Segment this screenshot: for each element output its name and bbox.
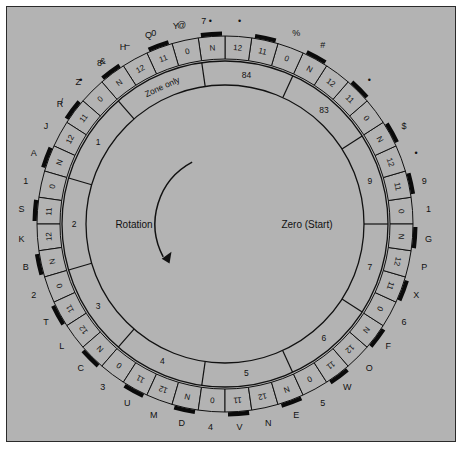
zone-label: 9	[368, 176, 373, 186]
outer-character-ring: 01112N01112N01112N01112N01112N01112N0111…	[37, 36, 413, 412]
outer-character-label: •	[238, 16, 241, 26]
character-cell-value: 12	[233, 43, 243, 53]
zone-separator	[342, 136, 362, 149]
outer-character-label: D	[178, 418, 185, 428]
outer-character-label: %	[292, 28, 300, 38]
figure-frame: 98384Zone only1234567 01112N01112N01112N…	[6, 6, 456, 442]
inner-zone-ring: 98384Zone only1234567	[62, 61, 388, 387]
outer-character-label: B	[23, 262, 29, 272]
zone-separator	[118, 101, 134, 119]
zone-label: 6	[321, 333, 326, 343]
outer-character-label: 1	[426, 204, 431, 214]
zone-separator	[202, 362, 205, 386]
zone-separator	[69, 178, 92, 185]
zone-separator	[202, 63, 205, 87]
zone-separator	[69, 263, 92, 270]
outer-character-label: J	[44, 121, 49, 131]
outer-character-label: S	[19, 204, 25, 214]
zone-separator	[283, 350, 293, 372]
character-cell-value: N	[396, 233, 405, 240]
outer-character-label: 9	[422, 176, 427, 186]
outer-character-label: 7	[201, 16, 206, 26]
zone-separator	[283, 76, 293, 98]
character-cell-value: 12	[44, 231, 54, 241]
zone-label: 84	[242, 70, 252, 80]
index-tick	[414, 227, 416, 248]
code-wheel-diagram: 98384Zone only1234567 01112N01112N01112N…	[7, 7, 455, 441]
outer-character-label: W	[343, 382, 352, 392]
index-tick	[201, 34, 222, 36]
outer-character-label: U	[124, 398, 131, 408]
zone-label: 1	[96, 137, 101, 147]
character-cell-value: 11	[233, 395, 242, 405]
outer-character-label: Q	[145, 30, 152, 40]
outer-character-label: K	[19, 234, 25, 244]
zone-label: 5	[244, 368, 249, 378]
outer-character-label: T	[43, 317, 49, 327]
outer-character-label: 4	[208, 422, 213, 432]
outer-character-label: R	[57, 99, 64, 109]
outer-character-label: 8	[97, 58, 102, 68]
outer-character-label: N	[265, 418, 272, 428]
zone-label: 7	[368, 262, 373, 272]
outer-character-label: C	[78, 363, 85, 373]
outer-character-label: O	[366, 363, 373, 373]
zone-label: 3	[96, 301, 101, 311]
zone-separator	[118, 329, 134, 347]
outer-character-label: H	[120, 42, 127, 52]
outer-character-label: 1	[23, 176, 28, 186]
rotation-arrow	[155, 162, 192, 263]
outer-character-label: 5	[320, 398, 325, 408]
outer-character-label: $	[402, 121, 407, 131]
outer-character-label: X	[413, 290, 419, 300]
outer-character-label: V	[237, 422, 243, 432]
outer-character-label: Z	[76, 77, 82, 87]
character-cell-value: 11	[44, 206, 54, 215]
zone-label: 2	[72, 219, 77, 229]
index-tick	[35, 200, 37, 221]
outer-character-label: E	[293, 410, 299, 420]
outer-character-label: P	[421, 262, 427, 272]
zero-start-label: Zero (Start)	[281, 219, 332, 230]
outer-character-label: 3	[100, 382, 105, 392]
zone-label: 4	[160, 356, 165, 366]
outer-character-label: #	[320, 40, 325, 50]
outer-character-label: 2	[31, 290, 36, 300]
index-tick	[228, 413, 249, 415]
zone-label: 83	[319, 105, 329, 115]
outer-character-label: •	[415, 148, 418, 158]
outer-character-label: Y	[173, 21, 179, 31]
zone-separator	[342, 299, 362, 312]
outer-character-label: G	[425, 234, 432, 244]
outer-character-label: F	[386, 341, 392, 351]
outer-character-label: •	[209, 16, 212, 26]
rotation-label: Rotation	[115, 219, 152, 230]
outer-character-label: A	[31, 148, 37, 158]
outer-character-label: 6	[402, 317, 407, 327]
outer-character-label: •	[368, 75, 371, 85]
character-cell-value: N	[209, 43, 216, 52]
outer-character-label: M	[150, 410, 158, 420]
outer-character-label: L	[59, 341, 64, 351]
